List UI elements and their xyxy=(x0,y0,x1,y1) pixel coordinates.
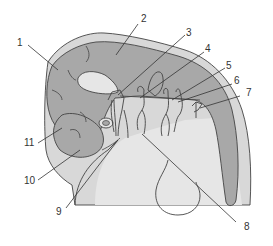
label-3: 3 xyxy=(186,28,192,38)
label-2: 2 xyxy=(141,14,147,24)
label-8: 8 xyxy=(244,222,250,232)
label-6: 6 xyxy=(234,76,240,86)
label-7: 7 xyxy=(246,88,252,98)
label-5: 5 xyxy=(226,61,232,71)
embryo-diagram xyxy=(0,0,273,246)
label-9: 9 xyxy=(56,207,62,217)
label-1: 1 xyxy=(17,38,23,48)
label-10: 10 xyxy=(24,176,35,186)
label-4: 4 xyxy=(205,44,211,54)
label-11: 11 xyxy=(24,138,34,148)
otic-vesicle-core xyxy=(103,121,110,126)
